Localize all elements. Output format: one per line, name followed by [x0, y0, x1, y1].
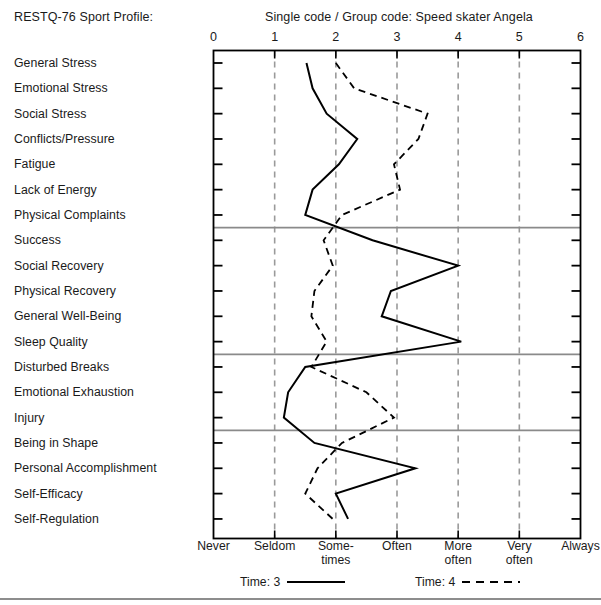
bottom-divider — [0, 598, 601, 600]
legend-line-swatch — [462, 577, 520, 587]
restq-sport-profile-chart: RESTQ-76 Sport Profile: Single code / Gr… — [0, 0, 601, 605]
scale-label-row: NeverSeldomSome- timesOftenMore oftenVer… — [0, 540, 601, 580]
axis-tick-label-top: 3 — [394, 30, 401, 44]
legend-item: Time: 3 — [240, 575, 345, 589]
plot-area — [0, 0, 601, 605]
scale-label: Always — [561, 540, 600, 554]
chart-legend: Time: 3Time: 4 — [0, 575, 601, 597]
scale-label: Seldom — [254, 540, 295, 554]
legend-item: Time: 4 — [415, 575, 520, 589]
series-line-2 — [305, 63, 427, 519]
axis-tick-label-top: 1 — [271, 30, 278, 44]
scale-label: Often — [382, 540, 412, 554]
plot-svg — [0, 0, 601, 605]
scale-label: Never — [197, 540, 230, 554]
series-line-1 — [284, 63, 461, 519]
legend-label: Time: 3 — [240, 575, 280, 589]
scale-label: Very often — [506, 540, 533, 567]
axis-tick-label-top: 4 — [455, 30, 462, 44]
axis-tick-label-top: 5 — [516, 30, 523, 44]
legend-line-swatch — [287, 577, 345, 587]
axis-tick-label-top: 0 — [210, 30, 217, 44]
legend-label: Time: 4 — [415, 575, 455, 589]
axis-tick-label-top: 2 — [332, 30, 339, 44]
scale-label: Some- times — [318, 540, 354, 567]
scale-label: More often — [444, 540, 472, 567]
axis-tick-label-top: 6 — [577, 30, 584, 44]
